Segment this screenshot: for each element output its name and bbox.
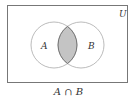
set-b-label: B	[87, 41, 95, 51]
set-a-label: A	[40, 41, 48, 51]
caption: A ∩ B	[0, 86, 137, 97]
venn-diagram: U A B	[0, 0, 137, 100]
universe-label: U	[119, 9, 127, 19]
